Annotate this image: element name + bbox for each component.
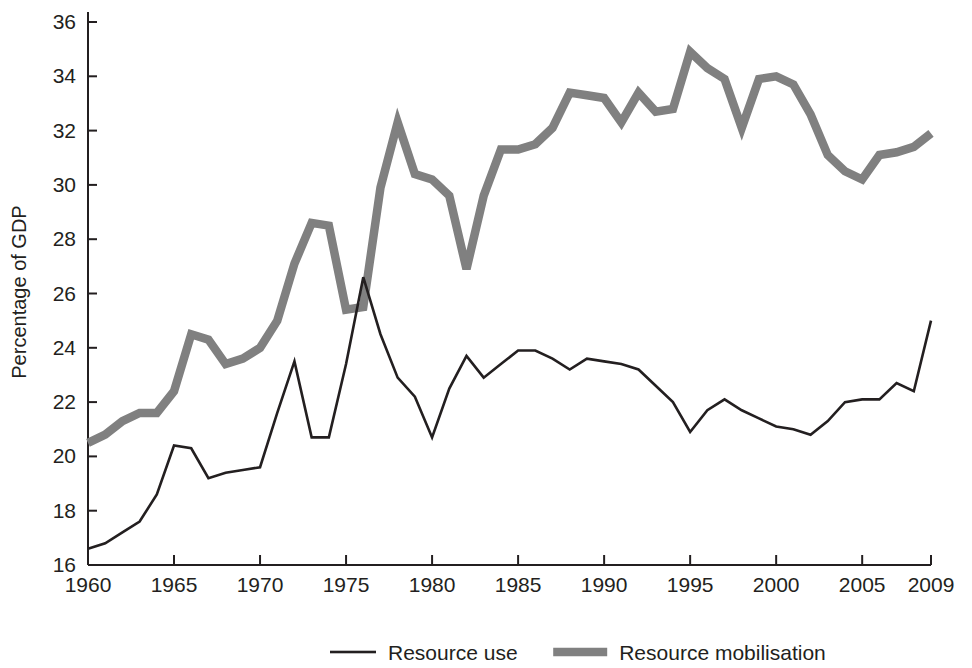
x-tick-label: 1980	[409, 573, 456, 596]
y-tick-label: 22	[53, 390, 76, 413]
y-tick-label: 28	[53, 227, 76, 250]
y-axis-title-text: Percentage of GDP	[8, 205, 30, 378]
x-tick-label: 2000	[753, 573, 800, 596]
legend-swatch-2	[553, 648, 607, 657]
x-tick-label: 1965	[151, 573, 198, 596]
x-tick-label: 1985	[495, 573, 542, 596]
x-tick-label: 2009	[908, 573, 955, 596]
y-tick-label: 26	[53, 282, 76, 305]
y-tick-label: 34	[53, 64, 77, 87]
legend-label-1: Resource use	[388, 641, 518, 664]
y-tick-label: 36	[53, 10, 76, 33]
y-tick-label: 32	[53, 119, 76, 142]
legend-swatch-1	[330, 651, 376, 654]
x-tick-label: 1995	[667, 573, 714, 596]
x-tick-label: 1990	[581, 573, 628, 596]
y-tick-label: 30	[53, 173, 76, 196]
y-tick-label: 24	[53, 336, 77, 359]
y-tick-label: 18	[53, 499, 76, 522]
y-tick-label: 20	[53, 444, 76, 467]
x-tick-label: 1960	[65, 573, 112, 596]
x-tick-label: 1970	[237, 573, 284, 596]
legend-label-2: Resource mobilisation	[619, 641, 826, 664]
chart-figure: Percentage of GDP 1618202224262830323436…	[0, 0, 972, 668]
x-tick-label: 2005	[839, 573, 886, 596]
y-axis-title: Percentage of GDP	[8, 205, 30, 378]
line-chart-svg: Percentage of GDP 1618202224262830323436…	[0, 0, 972, 668]
x-tick-label: 1975	[323, 573, 370, 596]
chart-background	[0, 0, 972, 668]
